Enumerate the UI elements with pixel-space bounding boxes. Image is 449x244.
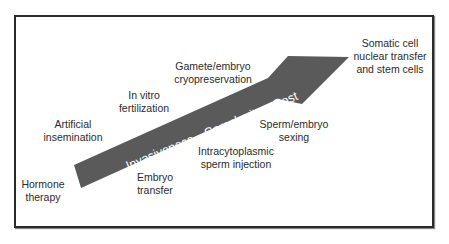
label-line: nuclear transfer <box>352 50 428 63</box>
label-line: insemination <box>40 131 106 144</box>
technique-embryo-transfer: Embryo transfer <box>130 171 180 197</box>
label-line: and stem cells <box>352 63 428 76</box>
technique-intracytoplasmic-sperm-injection: Intracytoplasmic sperm injection <box>194 145 278 171</box>
label-line: Artificial <box>40 118 106 131</box>
technique-in-vitro-fertilization: In vitro fertilization <box>114 89 174 115</box>
technique-somatic-cell-nuclear-transfer: Somatic cell nuclear transfer and stem c… <box>352 37 428 76</box>
label-line: therapy <box>18 191 68 204</box>
technique-artificial-insemination: Artificial insemination <box>40 118 106 144</box>
label-line: sexing <box>254 131 334 144</box>
label-line: Intracytoplasmic <box>194 145 278 158</box>
label-line: In vitro <box>114 89 174 102</box>
label-line: sperm injection <box>194 158 278 171</box>
label-line: transfer <box>130 184 180 197</box>
technique-gamete-embryo-cryopreservation: Gamete/embryo cryopreservation <box>170 60 256 86</box>
technique-sperm-embryo-sexing: Sperm/embryo sexing <box>254 118 334 144</box>
label-line: fertilization <box>114 102 174 115</box>
technique-hormone-therapy: Hormone therapy <box>18 178 68 204</box>
label-line: Somatic cell <box>352 37 428 50</box>
label-line: Embryo <box>130 171 180 184</box>
label-line: cryopreservation <box>170 73 256 86</box>
label-line: Gamete/embryo <box>170 60 256 73</box>
label-line: Sperm/embryo <box>254 118 334 131</box>
label-line: Hormone <box>18 178 68 191</box>
